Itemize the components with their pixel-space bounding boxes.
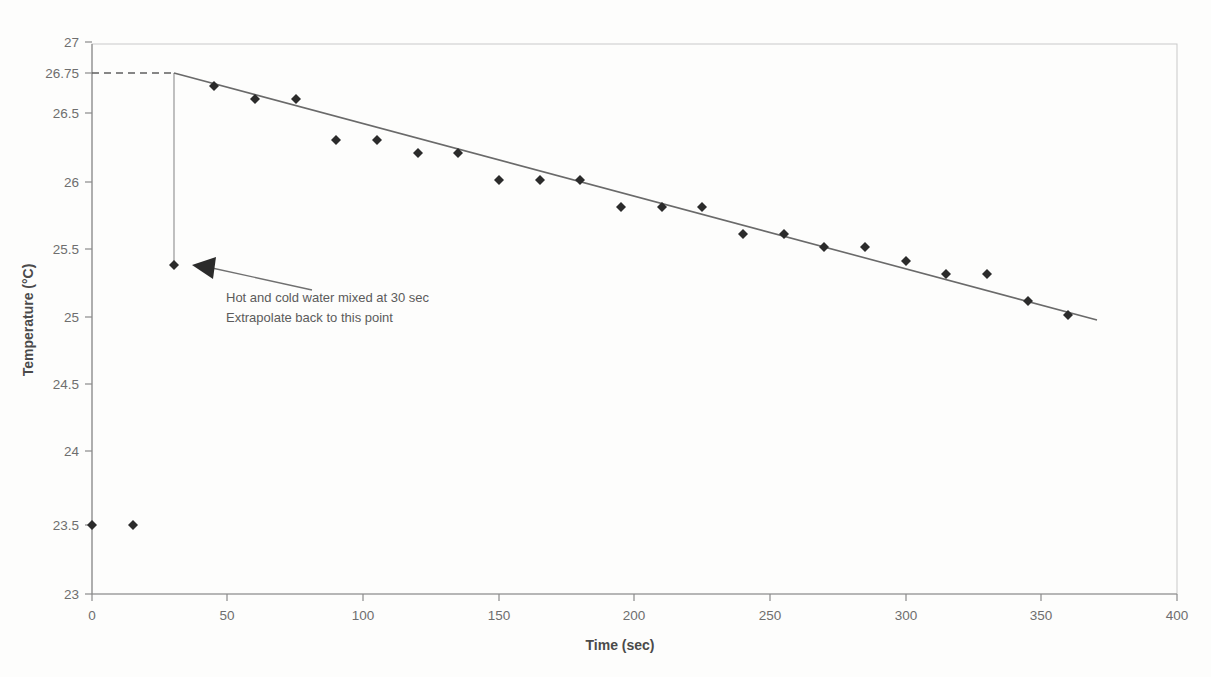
x-axis-title: Time (sec) [586, 637, 655, 653]
data-point [169, 260, 179, 270]
data-point [535, 175, 545, 185]
data-point [616, 202, 626, 212]
y-tick-label: 26 [64, 175, 79, 190]
data-point [494, 175, 504, 185]
data-point [819, 242, 829, 252]
data-point [413, 148, 423, 158]
x-tick-label: 200 [623, 608, 646, 623]
y-tick-label: 26.75 [45, 66, 79, 81]
annotation-arrow-head [192, 257, 216, 279]
x-tick-label: 0 [88, 608, 96, 623]
y-axis-tick-labels: 27 26.75 26.5 26 25.5 25 24.5 24 23.5 23 [45, 35, 79, 602]
x-tick-label: 100 [352, 608, 375, 623]
y-tick-label: 25 [64, 310, 79, 325]
data-point [982, 269, 992, 279]
data-point [738, 229, 748, 239]
annotation-line-2: Extrapolate back to this point [226, 310, 393, 325]
x-tick-label: 300 [895, 608, 918, 623]
data-point [291, 94, 301, 104]
x-tick-label: 250 [759, 608, 782, 623]
y-tick-label: 26.5 [53, 106, 79, 121]
y-tick-label: 23 [64, 587, 79, 602]
guide-lines [92, 73, 174, 265]
x-tick-label: 150 [488, 608, 511, 623]
mixing-annotation-text: Hot and cold water mixed at 30 sec Extra… [226, 290, 430, 325]
annotation-line-1: Hot and cold water mixed at 30 sec [226, 290, 430, 305]
y-axis-ticks [85, 42, 92, 594]
y-tick-label: 24.5 [53, 377, 79, 392]
data-point-series [87, 81, 1073, 530]
y-tick-label: 25.5 [53, 242, 79, 257]
temperature-vs-time-scatter-chart: 27 26.75 26.5 26 25.5 25 24.5 24 23.5 23… [0, 0, 1211, 677]
annotation-arrow-line [212, 268, 312, 290]
data-point [1023, 296, 1033, 306]
x-tick-label: 400 [1166, 608, 1189, 623]
data-point [331, 135, 341, 145]
mixing-annotation-arrow [192, 257, 312, 290]
x-tick-label: 50 [219, 608, 234, 623]
data-point [697, 202, 707, 212]
data-point [657, 202, 667, 212]
y-tick-label: 27 [64, 35, 79, 50]
data-point [372, 135, 382, 145]
y-tick-label: 23.5 [53, 518, 79, 533]
x-tick-label: 350 [1030, 608, 1053, 623]
x-axis-tick-labels: 0 50 100 150 200 250 300 350 400 [88, 608, 1188, 623]
trend-line [174, 73, 1097, 320]
x-axis-ticks [92, 594, 1177, 601]
y-axis-title: Temperature (°C) [20, 264, 36, 377]
data-point [941, 269, 951, 279]
data-point [128, 520, 138, 530]
y-tick-label: 24 [64, 444, 80, 459]
data-point [87, 520, 97, 530]
data-point [575, 175, 585, 185]
data-point [901, 256, 911, 266]
data-point [860, 242, 870, 252]
chart-figure: 27 26.75 26.5 26 25.5 25 24.5 24 23.5 23… [0, 0, 1211, 677]
